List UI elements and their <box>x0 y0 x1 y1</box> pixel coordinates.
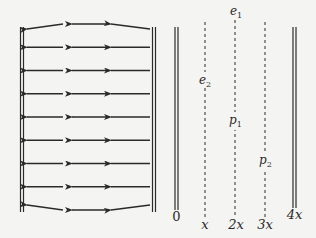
plate-four-x <box>293 27 296 208</box>
label-2x: 2x <box>227 217 244 232</box>
label-e1: e1 <box>230 4 242 20</box>
left-panel-right-plate <box>153 27 156 212</box>
field-arrow-icon <box>27 24 63 29</box>
field-arrows <box>27 24 150 210</box>
field-arrow-icon <box>111 205 150 210</box>
parallel-plate-diagram: e1 e2 p1 p2 0 x 2x 3x 4x <box>0 0 316 238</box>
field-arrow-icon <box>111 24 150 29</box>
left-panel-left-plate <box>21 27 24 212</box>
label-x: x <box>201 217 209 232</box>
label-4x: 4x <box>286 207 303 222</box>
label-3x: 3x <box>257 217 273 232</box>
label-zero: 0 <box>172 209 180 224</box>
field-arrow-icon <box>27 205 63 210</box>
plate-zero <box>175 27 178 210</box>
